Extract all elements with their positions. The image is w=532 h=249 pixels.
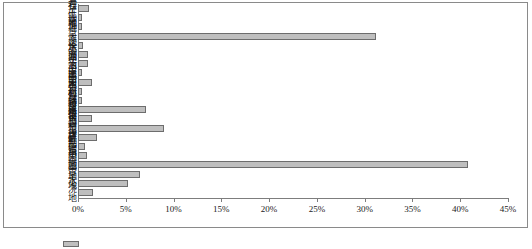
- x-axis-tick: [126, 198, 127, 202]
- x-axis-tick-label: 45%: [488, 204, 528, 215]
- x-axis-tick-label: 20%: [249, 204, 289, 215]
- x-axis-tick: [269, 198, 270, 202]
- bar: [78, 60, 88, 67]
- bar: [78, 125, 164, 132]
- bar: [78, 143, 85, 150]
- bar: [78, 42, 83, 49]
- x-axis-tick-label: 25%: [297, 204, 337, 215]
- bar: [78, 189, 93, 196]
- bar: [78, 14, 82, 21]
- bar: [78, 161, 468, 168]
- bar: [78, 23, 82, 30]
- legend-swatch-icon: [63, 241, 79, 247]
- x-axis-tick: [460, 198, 461, 202]
- x-axis-tick: [365, 198, 366, 202]
- category-axis-labels: 裸岩石砾地裸土地沙地荒草地滩涂水面坑塘水面湖泊水面河流水面民用机场农村道路公路用…: [0, 0, 78, 198]
- bar: [78, 69, 82, 76]
- category-label: 水浇地: [67, 176, 76, 202]
- bar: [78, 79, 92, 86]
- plot-area: [78, 4, 508, 198]
- bar: [78, 88, 82, 95]
- x-axis-tick-label: 5%: [106, 204, 146, 215]
- bar: [78, 106, 146, 113]
- bar: [78, 180, 128, 187]
- x-axis-tick: [78, 198, 79, 202]
- x-axis-tick-label: 35%: [392, 204, 432, 215]
- x-axis-tick: [412, 198, 413, 202]
- bar: [78, 5, 89, 12]
- category-axis-line: [78, 198, 508, 199]
- x-axis-tick-label: 15%: [201, 204, 241, 215]
- bar: [78, 51, 88, 58]
- x-axis-tick: [508, 198, 509, 202]
- legend: [63, 241, 84, 247]
- bar: [78, 115, 92, 122]
- x-axis-tick: [317, 198, 318, 202]
- bar: [78, 97, 82, 104]
- x-axis-tick-label: 40%: [440, 204, 480, 215]
- chart-screenshot: 裸岩石砾地裸土地沙地荒草地滩涂水面坑塘水面湖泊水面河流水面民用机场农村道路公路用…: [0, 0, 532, 249]
- x-axis-tick-label: 0%: [58, 204, 98, 215]
- bar: [78, 134, 97, 141]
- x-axis-tick-label: 30%: [345, 204, 385, 215]
- bar: [78, 33, 376, 40]
- x-axis-tick-label: 10%: [154, 204, 194, 215]
- bar: [78, 171, 140, 178]
- x-axis-tick: [221, 198, 222, 202]
- bar: [78, 152, 87, 159]
- x-axis-tick: [174, 198, 175, 202]
